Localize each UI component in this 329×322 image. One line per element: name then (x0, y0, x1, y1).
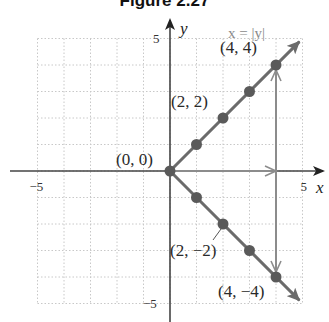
x-tick-label: −5 (30, 179, 44, 194)
data-point (191, 192, 202, 203)
data-point (165, 166, 176, 177)
y-axis-label: y (178, 19, 188, 38)
data-point (191, 139, 202, 150)
data-point (271, 60, 282, 71)
coordinate-plane: xy−555−5 (0, 0)(2, 2)(4, 4)(2, −2)(4, −4… (0, 0, 329, 322)
data-point (244, 86, 255, 97)
y-tick-label: −5 (143, 296, 157, 311)
label-leader-line (213, 229, 221, 240)
y-tick-label: 5 (153, 31, 160, 46)
data-point (218, 113, 229, 124)
x-tick-label: 5 (301, 179, 308, 194)
labels: (0, 0)(2, 2)(4, 4)(2, −2)(4, −4)x = |y| (116, 25, 265, 301)
x-axis-label: x (315, 178, 324, 197)
point-label: (4, −4) (218, 282, 264, 301)
point-label: (2, 2) (171, 92, 208, 111)
data-point (244, 245, 255, 256)
point-label: (0, 0) (116, 150, 153, 169)
graph-branch (170, 171, 299, 300)
equation-label: x = |y| (228, 25, 265, 41)
data-point (271, 272, 282, 283)
point-label: (2, −2) (170, 241, 216, 260)
data-point (218, 219, 229, 230)
